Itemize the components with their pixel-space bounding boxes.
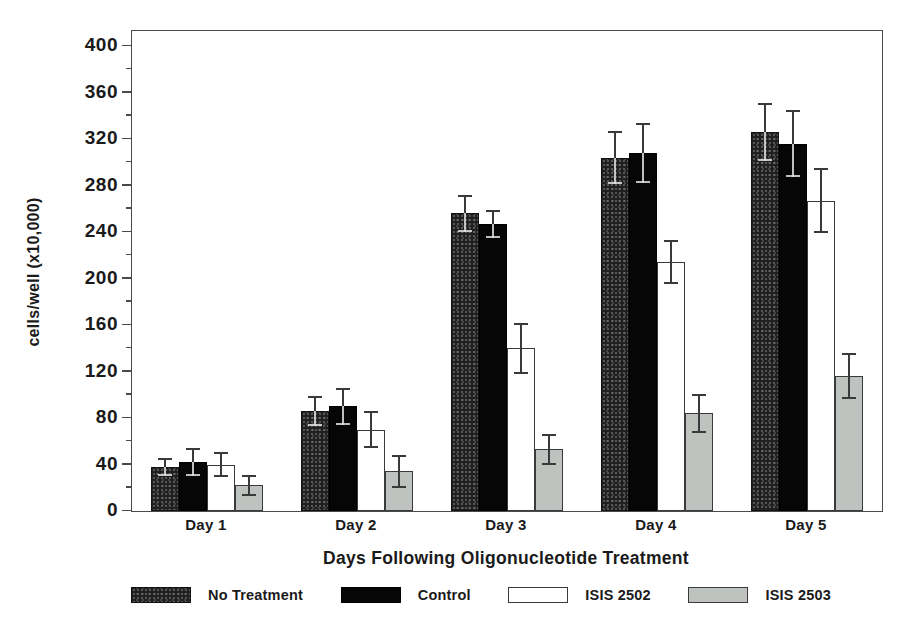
bar-slot — [179, 31, 207, 511]
y-major-tick — [122, 277, 131, 279]
error-bar-cap — [458, 230, 472, 232]
error-bar-cap — [336, 423, 350, 425]
bar-no-treatment-day-3 — [451, 213, 479, 511]
legend-item-no-treatment: No Treatment — [131, 587, 303, 603]
x-label-day-5: Day 5 — [731, 516, 881, 538]
error-bar-cap — [392, 455, 406, 457]
error-bar-cap — [458, 195, 472, 197]
error-bar-cap — [692, 431, 706, 433]
error-bar-line — [764, 103, 766, 132]
error-bar-cap — [242, 494, 256, 496]
y-tick-label: 160 — [36, 313, 118, 335]
error-bar-cap — [336, 388, 350, 390]
legend: No TreatmentControlISIS 2502ISIS 2503 — [131, 583, 831, 607]
error-bar-line — [848, 353, 850, 376]
y-major-tick — [122, 45, 131, 47]
y-tick-label: 360 — [36, 81, 118, 103]
error-bar-line — [314, 396, 316, 411]
error-bar — [835, 353, 863, 400]
bar-slot — [807, 31, 835, 511]
error-bar-cap — [608, 131, 622, 133]
error-bar-cap — [758, 159, 772, 161]
error-bar-cap — [308, 396, 322, 398]
error-bar-line — [548, 434, 550, 449]
x-label-day-3: Day 3 — [431, 516, 581, 538]
error-bar-line — [614, 158, 616, 185]
bar-no-treatment-day-4 — [601, 158, 629, 511]
error-bar-cap — [242, 475, 256, 477]
error-bar-cap — [692, 394, 706, 396]
error-bar-cap — [542, 463, 556, 465]
bar-slot — [235, 31, 263, 511]
error-bar — [451, 195, 479, 232]
error-bar-cap — [664, 282, 678, 284]
error-bar-line — [848, 376, 850, 399]
error-bar-line — [642, 153, 644, 183]
y-tick-label: 200 — [36, 267, 118, 289]
bar-slot — [301, 31, 329, 511]
legend-item-control: Control — [341, 587, 471, 603]
bar-slot — [779, 31, 807, 511]
bar-slot — [835, 31, 863, 511]
y-major-tick — [122, 231, 131, 233]
bar-slot — [329, 31, 357, 511]
bar-slot — [629, 31, 657, 511]
error-bar — [235, 475, 263, 496]
bar-slot — [601, 31, 629, 511]
y-tick-label: 400 — [36, 34, 118, 56]
y-tick-label: 80 — [36, 406, 118, 428]
error-bar-cap — [814, 168, 828, 170]
x-label-day-2: Day 2 — [281, 516, 431, 538]
error-bar-line — [792, 144, 794, 178]
bar-set — [751, 31, 863, 511]
error-bar — [479, 210, 507, 238]
error-bar-cap — [842, 397, 856, 399]
legend-swatch — [688, 587, 748, 603]
legend-swatch — [131, 587, 191, 603]
bar-set — [451, 31, 563, 511]
legend-label: ISIS 2503 — [765, 587, 831, 603]
bar-set — [151, 31, 263, 511]
y-tick-label: 240 — [36, 220, 118, 242]
bar-set — [301, 31, 413, 511]
y-tick-label: 0 — [36, 499, 118, 521]
bar-control-day-3 — [479, 224, 507, 511]
error-bar-line — [398, 455, 400, 471]
error-bar — [535, 434, 563, 464]
y-major-tick — [122, 463, 131, 465]
bar-slot — [207, 31, 235, 511]
error-bar-cap — [814, 231, 828, 233]
error-bar-cap — [786, 175, 800, 177]
bar-slot — [685, 31, 713, 511]
error-bar-cap — [514, 323, 528, 325]
error-bar-cap — [542, 434, 556, 436]
x-category-labels: Day 1Day 2Day 3Day 4Day 5 — [131, 516, 881, 538]
legend-item-isis-2502: ISIS 2502 — [508, 587, 651, 603]
bar-group-day-4 — [582, 31, 732, 511]
x-label-day-1: Day 1 — [131, 516, 281, 538]
bar-isis-2502-day-4 — [657, 262, 685, 511]
error-bar-line — [192, 448, 194, 462]
error-bar — [329, 388, 357, 425]
bar-slot — [535, 31, 563, 511]
error-bar-cap — [514, 372, 528, 374]
error-bar — [807, 168, 835, 233]
bar-group-day-3 — [432, 31, 582, 511]
error-bar-line — [820, 168, 822, 201]
error-bar — [507, 323, 535, 374]
error-bar-cap — [214, 475, 228, 477]
error-bar-cap — [364, 411, 378, 413]
error-bar — [601, 131, 629, 184]
legend-swatch — [508, 587, 568, 603]
y-major-tick — [122, 417, 131, 419]
error-bar-cap — [186, 448, 200, 450]
legend-swatch — [341, 587, 401, 603]
error-bar-cap — [486, 236, 500, 238]
error-bar — [357, 411, 385, 448]
bar-set — [601, 31, 713, 511]
y-major-tick — [122, 510, 131, 512]
error-bar — [385, 455, 413, 488]
error-bar-cap — [392, 486, 406, 488]
error-bar — [301, 396, 329, 426]
bar-group-day-1 — [132, 31, 282, 511]
